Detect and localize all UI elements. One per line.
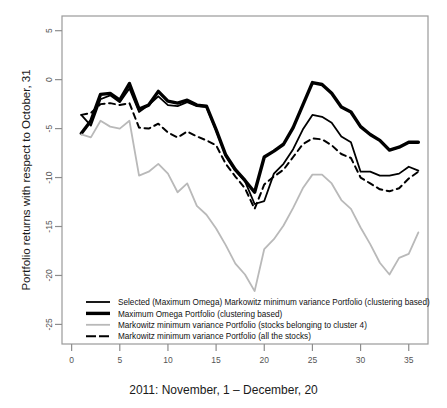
y-tick-label-4: -15 [44,220,54,233]
x-tick-label-1: 5 [117,355,122,365]
y-tick-label-0: 5 [44,28,54,33]
legend-label-0: Selected (Maximum Omega) Markowitz minim… [118,298,430,307]
y-tick-label-6: -25 [44,318,54,331]
x-tick-label-5: 25 [308,355,318,365]
y-tick-label-2: -5 [44,125,54,133]
legend-label-3: Markowitz minimum variance Portfolio (al… [118,332,311,341]
x-tick-label-4: 20 [260,355,270,365]
x-tick-label-3: 15 [211,355,221,365]
y-tick-label-3: -10 [44,171,54,184]
series-line-2 [81,121,418,291]
x-tick-label-2: 10 [163,355,173,365]
x-tick-label-7: 35 [404,355,414,365]
y-tick-label-1: 0 [44,77,54,82]
x-tick-label-0: 0 [69,355,74,365]
chart-figure: 50-5-10-15-20-2505101520253035Selected (… [0,0,447,408]
legend-label-1: Maximum Omega Portfolio (clustering base… [118,310,283,319]
y-tick-label-5: -20 [44,269,54,282]
x-axis-title: 2011: November, 1 – December, 20 [0,383,447,397]
legend-label-2: Markowitz minimum variance Portfolio (st… [118,321,367,330]
x-tick-label-6: 30 [356,355,366,365]
plot-canvas: 50-5-10-15-20-2505101520253035Selected (… [0,0,447,408]
y-axis-title: Portfolio returns with respect to Octobe… [20,20,32,340]
